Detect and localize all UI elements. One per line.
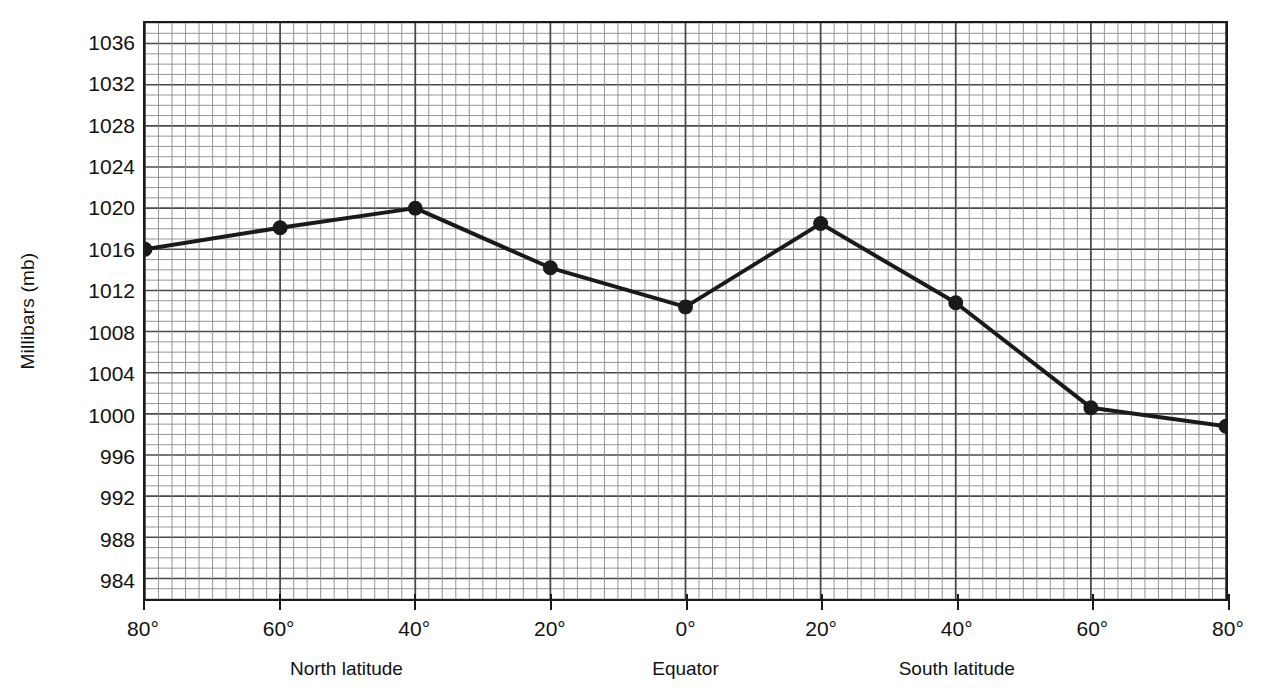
y-axis-tick-label: 1032 [60, 73, 135, 94]
y-axis-tick-label: 1020 [60, 197, 135, 218]
data-point [1219, 419, 1226, 434]
y-axis-tick-label: 996 [60, 446, 135, 467]
x-axis-tick-label: 0° [641, 618, 731, 639]
x-axis-group-label: South latitude [827, 659, 1087, 678]
x-axis-tick-mark [957, 594, 959, 610]
y-axis-tick-label: 1024 [60, 156, 135, 177]
x-axis-tick-mark [143, 594, 145, 610]
x-axis-tick-mark [1228, 594, 1230, 610]
data-point [813, 216, 828, 231]
data-series-line [145, 23, 1226, 599]
y-axis-tick-labels: 1036103210281024102010161012100810041000… [60, 21, 135, 601]
x-axis-tick-mark [1092, 594, 1094, 610]
data-point [948, 295, 963, 310]
x-axis-tick-mark [279, 594, 281, 610]
x-axis-tick-label: 20° [776, 618, 866, 639]
y-axis-tick-label: 1036 [60, 31, 135, 52]
x-axis-tick-label: 20° [505, 618, 595, 639]
y-axis-tick-label: 1008 [60, 321, 135, 342]
data-point [408, 201, 423, 216]
y-axis-tick-label: 988 [60, 528, 135, 549]
data-point [1083, 400, 1098, 415]
x-axis-tick-mark [550, 594, 552, 610]
data-point [678, 299, 693, 314]
y-axis-tick-label: 1028 [60, 114, 135, 135]
x-axis-tick-label: 80° [1183, 618, 1262, 639]
data-point [273, 220, 288, 235]
y-axis-tick-label: 984 [60, 570, 135, 591]
x-axis-tick-mark [821, 594, 823, 610]
y-axis-tick-label: 1004 [60, 363, 135, 384]
x-axis-tick-label: 40° [369, 618, 459, 639]
y-axis-tick-label: 992 [60, 487, 135, 508]
x-axis-tick-label: 60° [234, 618, 324, 639]
data-point [145, 242, 152, 257]
y-axis-title: Millibars (mb) [17, 211, 39, 411]
x-axis-labels: 80°60°40°20°0°20°40°60°80°North latitude… [143, 601, 1228, 694]
x-axis-tick-mark [414, 594, 416, 610]
x-axis-tick-label: 60° [1047, 618, 1137, 639]
x-axis-group-label: North latitude [216, 659, 476, 678]
x-axis-tick-label: 80° [98, 618, 188, 639]
plot-area [143, 21, 1228, 601]
x-axis-group-label: Equator [556, 659, 816, 678]
x-axis-tick-mark [686, 594, 688, 610]
pressure-latitude-chart: Millibars (mb) 1036103210281024102010161… [0, 0, 1262, 694]
x-axis-tick-label: 40° [912, 618, 1002, 639]
y-axis-tick-label: 1012 [60, 280, 135, 301]
data-point [543, 260, 558, 275]
y-axis-tick-label: 1000 [60, 404, 135, 425]
y-axis-tick-label: 1016 [60, 238, 135, 259]
